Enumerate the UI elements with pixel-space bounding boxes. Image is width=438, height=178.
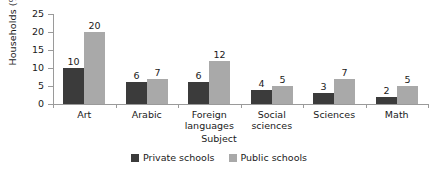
bar-value-label: 4 (258, 78, 264, 89)
x-axis-title: Subject (0, 133, 438, 144)
legend-swatch-public (229, 154, 237, 162)
x-axis-tick (241, 104, 242, 108)
y-axis-tick: 10 (48, 68, 53, 69)
bar-value-label: 5 (279, 74, 285, 85)
y-axis-tick-label: 15 (32, 44, 44, 55)
bar-public: 7 (147, 79, 168, 104)
y-axis-tick: 5 (48, 86, 53, 87)
y-axis-tick-label: 5 (38, 80, 44, 91)
bar-public: 7 (334, 79, 355, 104)
category-label-line: Foreign (178, 110, 241, 121)
category-label-line: Sciences (303, 110, 366, 121)
bar-private: 10 (63, 68, 84, 104)
y-axis-tick-label: 20 (32, 26, 44, 37)
bar-value-label: 2 (383, 85, 389, 96)
x-axis-tick (366, 104, 367, 108)
x-axis-tick (178, 104, 179, 108)
bar-value-label: 12 (213, 49, 225, 60)
y-axis-tick-label: 25 (32, 8, 44, 19)
x-axis-tick (303, 104, 304, 108)
bar-public: 20 (84, 32, 105, 104)
category-label-line: languages (178, 121, 241, 132)
y-axis-tick-label: 0 (38, 98, 44, 109)
x-axis-category-label: Arabic (116, 110, 179, 121)
y-axis-tick: 20 (48, 32, 53, 33)
bar-private: 6 (188, 82, 209, 104)
bar-private: 3 (313, 93, 334, 104)
legend-label: Public schools (241, 152, 308, 163)
x-axis-category-label: Foreignlanguages (178, 110, 241, 131)
y-axis-tick-label: 10 (32, 62, 44, 73)
category-label-line: Arabic (116, 110, 179, 121)
y-axis-line (53, 14, 54, 104)
legend-item[interactable]: Public schools (229, 152, 308, 163)
bar-public: 5 (397, 86, 418, 104)
category-label-line: Social (241, 110, 304, 121)
x-axis-category-label: Socialsciences (241, 110, 304, 131)
bar-public: 12 (209, 61, 230, 104)
bar-public: 5 (272, 86, 293, 104)
chart-legend: Private schoolsPublic schools (0, 152, 438, 163)
y-axis-tick: 15 (48, 50, 53, 51)
bar-private: 2 (376, 97, 397, 104)
x-axis-tick (116, 104, 117, 108)
bar-private: 4 (251, 90, 272, 104)
bar-value-label: 5 (404, 74, 410, 85)
bar-value-label: 3 (320, 81, 326, 92)
bar-value-label: 6 (133, 70, 139, 81)
bar-value-label: 10 (67, 56, 79, 67)
x-axis-tick (53, 104, 54, 108)
x-axis-category-label: Art (53, 110, 116, 121)
bar-value-label: 7 (341, 67, 347, 78)
legend-swatch-private (131, 154, 139, 162)
x-axis-category-label: Sciences (303, 110, 366, 121)
legend-label: Private schools (143, 152, 215, 163)
category-label-line: Art (53, 110, 116, 121)
plot-area: 05101520251020Art67Arabic612Foreignlangu… (53, 14, 428, 104)
bar-value-label: 20 (88, 20, 100, 31)
legend-item[interactable]: Private schools (131, 152, 215, 163)
category-label-line: Math (366, 110, 429, 121)
y-axis-tick: 25 (48, 14, 53, 15)
bar-private: 6 (126, 82, 147, 104)
x-axis-tick (428, 104, 429, 108)
category-label-line: sciences (241, 121, 304, 132)
y-axis-title: Households (%) (7, 0, 18, 78)
bar-value-label: 7 (154, 67, 160, 78)
bar-chart: Households (%) 05101520251020Art67Arabic… (0, 0, 438, 178)
x-axis-category-label: Math (366, 110, 429, 121)
bar-value-label: 6 (195, 70, 201, 81)
